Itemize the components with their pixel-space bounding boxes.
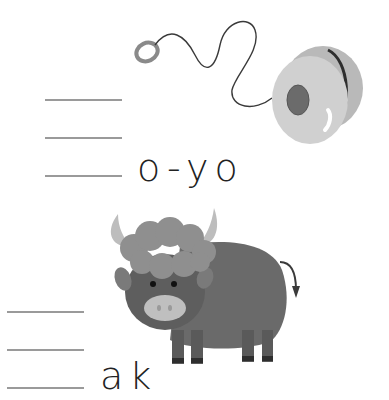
writing-line-3[interactable] (45, 175, 122, 177)
writing-line-2[interactable] (45, 137, 122, 139)
writing-line-1[interactable] (45, 99, 122, 101)
writing-line-6[interactable] (7, 387, 84, 389)
yak-icon (100, 200, 310, 370)
word-fragment-yak: ak (100, 357, 157, 395)
writing-line-5[interactable] (7, 349, 84, 351)
word-fragment-yoyo: o-yo (137, 149, 244, 187)
yoyo-icon (125, 20, 385, 150)
writing-line-4[interactable] (7, 311, 84, 313)
handwriting-worksheet: o-yo (0, 0, 389, 400)
